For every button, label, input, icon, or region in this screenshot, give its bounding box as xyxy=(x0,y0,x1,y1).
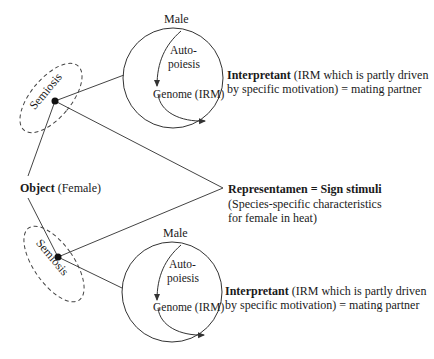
interpretant-top-line2: by specific motivation) = mating partner xyxy=(227,82,421,96)
interpretant-bottom: Interpretant (IRM which is partly driven xyxy=(225,284,426,298)
genome-label-bottom: Genome (IRM) xyxy=(153,300,224,314)
autopoiesis-label-bottom-1: Auto- xyxy=(169,257,196,271)
interpretant-top-desc1: (IRM which is partly driven xyxy=(291,68,429,82)
interpretant-top-heading: Interpretant xyxy=(227,68,291,82)
autopoiesis-label-top-2: poiesis xyxy=(168,57,200,71)
interpretant-bottom-desc1: (IRM which is partly driven xyxy=(289,284,427,298)
representamen-heading: Representamen = Sign stimuli xyxy=(228,182,382,196)
object-label: Object (Female) xyxy=(20,181,101,195)
line-semiosis-bottom-to-representamen xyxy=(58,188,223,257)
representamen-line2: (Species-specific characteristics xyxy=(228,197,382,211)
representamen-line3: for female in heat) xyxy=(228,211,317,225)
interpretant-bottom-line2: by specific motivation) = mating partner xyxy=(225,298,419,312)
autopoiesis-label-bottom-2: poiesis xyxy=(167,271,199,285)
autopoiesis-label-top-1: Auto- xyxy=(170,43,197,57)
object-desc: (Female) xyxy=(58,181,101,195)
object-heading: Object xyxy=(20,181,55,195)
genome-label-top: Genome (IRM) xyxy=(153,87,224,101)
male-label-bottom: Male xyxy=(163,226,188,240)
interpretant-bottom-heading: Interpretant xyxy=(225,284,289,298)
male-label-top: Male xyxy=(164,12,189,26)
interpretant-top: Interpretant (IRM which is partly driven xyxy=(227,68,428,82)
semiosis-dot-top xyxy=(52,98,59,105)
semiosis-ellipse-top xyxy=(9,53,94,143)
